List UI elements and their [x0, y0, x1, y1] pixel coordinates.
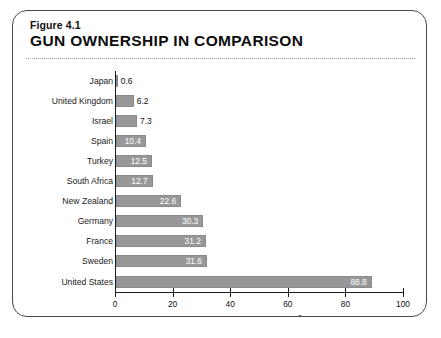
category-label: United States [61, 277, 113, 287]
x-axis-tick-label: 40 [226, 299, 235, 309]
bar [116, 115, 137, 127]
category-label: Japan [90, 76, 113, 86]
bar-value-label: 7.3 [140, 116, 152, 126]
bar-value-label: 12.5 [131, 156, 147, 166]
category-label: Germany [78, 216, 113, 226]
x-axis-tick-label: 100 [396, 299, 410, 309]
x-axis-title: Guns per 100 people [115, 313, 404, 317]
x-axis-tick [173, 288, 174, 297]
x-axis-tick-label: 20 [168, 299, 177, 309]
category-label: New Zealand [62, 196, 113, 206]
figure-card: Figure 4.1 GUN OWNERSHIP IN COMPARISON G… [12, 10, 427, 317]
bar-chart: Guns per 100 people Japan0.6United Kingd… [13, 67, 427, 317]
bar-row: New Zealand22.6 [13, 192, 427, 211]
bar-value-label: 88.8 [350, 277, 366, 287]
figure-number: Figure 4.1 [30, 19, 81, 31]
bar [116, 95, 134, 107]
x-axis-tick-label: 60 [283, 299, 292, 309]
bar-value-label: 31.6 [186, 256, 202, 266]
bar-row: Turkey12.5 [13, 151, 427, 170]
bar-value-label: 22.6 [160, 196, 176, 206]
bar [116, 75, 118, 87]
category-label: France [86, 236, 113, 246]
title-divider [26, 58, 415, 59]
x-axis-line [115, 292, 404, 293]
bar-value-label: 6.2 [137, 96, 149, 106]
x-axis-tick [345, 288, 346, 297]
bar-value-label: 31.2 [185, 236, 201, 246]
category-label: Turkey [87, 156, 113, 166]
bar-row: United Kingdom6.2 [13, 91, 427, 110]
bar-row: Israel7.3 [13, 111, 427, 130]
bar-value-label: 10.4 [125, 136, 141, 146]
bar [116, 276, 372, 288]
bar-row: Germany30.3 [13, 212, 427, 231]
bar-value-label: 12.7 [131, 176, 147, 186]
category-label: United Kingdom [52, 96, 113, 106]
bar-value-label: 0.6 [121, 76, 133, 86]
bar-row: South Africa12.7 [13, 172, 427, 191]
bar-row: France31.2 [13, 232, 427, 251]
bar-row: Spain10.4 [13, 131, 427, 150]
figure-title: GUN OWNERSHIP IN COMPARISON [30, 32, 303, 50]
x-axis-tick [288, 288, 289, 297]
x-axis-tick-label: 0 [113, 299, 118, 309]
plot-area: Guns per 100 people Japan0.6United Kingd… [13, 67, 427, 317]
bar-row: United States88.8 [13, 272, 427, 291]
category-label: Sweden [82, 256, 113, 266]
x-axis-tick [230, 288, 231, 297]
category-label: South Africa [67, 176, 113, 186]
bar-value-label: 30.3 [182, 216, 198, 226]
bar-row: Japan0.6 [13, 71, 427, 90]
x-axis-tick [403, 288, 404, 297]
bar-row: Sweden31.6 [13, 252, 427, 271]
x-axis-tick-label: 80 [341, 299, 350, 309]
category-label: Spain [91, 136, 113, 146]
category-label: Israel [92, 116, 113, 126]
x-axis-tick [115, 288, 116, 297]
